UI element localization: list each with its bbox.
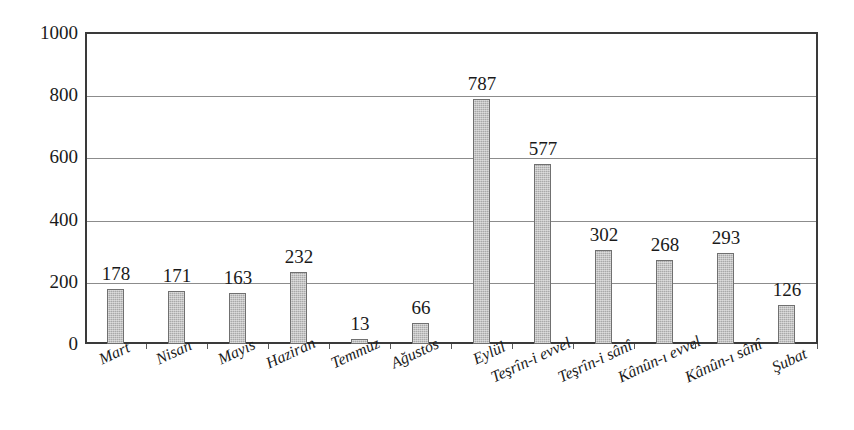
bar-value-label: 178 <box>102 264 131 283</box>
y-tick-label: 800 <box>50 85 79 104</box>
bar-value-label: 787 <box>468 74 497 93</box>
bar-value-label: 66 <box>412 298 431 317</box>
bar-value-label: 171 <box>163 266 192 285</box>
bar-eylul <box>473 99 490 344</box>
bar-value-label: 232 <box>285 247 314 266</box>
bar-value-label: 163 <box>224 268 253 287</box>
y-tick-label: 600 <box>50 147 79 166</box>
x-axis-labels: Mart Nisan Mayıs Haziran Temmuz Ağustos … <box>85 348 818 430</box>
y-tick-label: 0 <box>69 334 79 353</box>
bar-value-label: 126 <box>773 280 802 299</box>
bar-mart <box>107 289 124 344</box>
y-axis: 1000 800 600 400 200 0 <box>0 0 78 430</box>
bar-mayis <box>229 293 246 344</box>
y-tick-label: 200 <box>50 272 79 291</box>
bar-tesrin-i-evvel <box>534 164 551 344</box>
bar-value-label: 302 <box>590 225 619 244</box>
bar-value-label: 577 <box>529 139 558 158</box>
y-tick-label: 400 <box>50 210 79 229</box>
bar-haziran <box>290 272 307 344</box>
bar-tesrin-i-sani <box>595 250 612 344</box>
bar-kanun-i-sani <box>717 253 734 344</box>
bar-value-label: 13 <box>351 314 370 333</box>
bar-kanun-i-evvel <box>656 260 673 344</box>
y-tick-label: 1000 <box>40 23 78 42</box>
bar-value-label: 293 <box>712 228 741 247</box>
x-label-subat: Şubat <box>769 345 809 376</box>
bar-subat <box>778 305 795 344</box>
bar-nisan <box>168 291 185 344</box>
bar-chart: 1000 800 600 400 200 0 178 171 163 232 1… <box>0 0 854 430</box>
bar-value-label: 268 <box>651 235 680 254</box>
bars-layer: 178 171 163 232 13 66 787 577 302 268 29… <box>85 32 818 344</box>
